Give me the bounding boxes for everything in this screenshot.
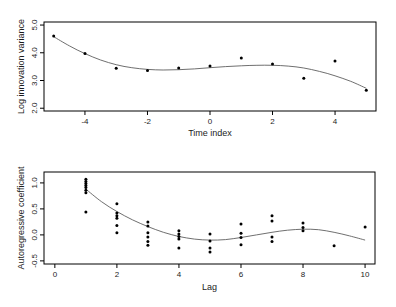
- x-tick-label: -4: [81, 117, 89, 126]
- y-ticks: -0.50.00.51.0: [30, 177, 44, 268]
- x-axis-label: Lag: [202, 282, 217, 292]
- data-point: [115, 214, 118, 217]
- x-ticks: 0246810: [53, 264, 370, 279]
- y-tick-label: 0.5: [30, 203, 39, 215]
- data-point: [115, 212, 118, 215]
- data-point: [334, 60, 337, 63]
- data-point: [240, 57, 243, 60]
- scatter-points: [52, 34, 368, 91]
- x-tick-label: 2: [115, 270, 120, 279]
- data-point: [302, 226, 305, 229]
- data-point: [115, 224, 118, 227]
- loess-curve: [86, 189, 365, 240]
- data-point: [365, 89, 368, 92]
- data-point: [177, 238, 180, 241]
- data-point: [177, 229, 180, 232]
- x-tick-label: 2: [270, 117, 275, 126]
- x-tick-label: 0: [208, 117, 213, 126]
- data-point: [240, 223, 243, 226]
- data-point: [84, 191, 87, 194]
- data-point: [146, 69, 149, 72]
- data-point: [84, 186, 87, 189]
- data-point: [146, 244, 149, 247]
- y-tick-label: -0.5: [30, 253, 39, 267]
- data-point: [177, 67, 180, 70]
- y-ticks: 2.03.04.05.0: [30, 19, 44, 114]
- data-point: [209, 232, 212, 235]
- x-tick-label: 10: [361, 270, 370, 279]
- data-point: [177, 246, 180, 249]
- data-point: [271, 236, 274, 239]
- panel-bottom: 0246810 -0.50.00.51.0 Lag Autoregressive…: [16, 166, 375, 292]
- x-tick-label: 6: [239, 270, 244, 279]
- data-point: [115, 217, 118, 220]
- data-point: [240, 236, 243, 239]
- data-point: [146, 220, 149, 223]
- two-panel-plot: -4-2024 2.03.04.05.0 Time index Log inno…: [0, 0, 396, 307]
- y-tick-label: 3.0: [30, 74, 39, 86]
- data-point: [240, 232, 243, 235]
- smooth-curve: [54, 37, 367, 89]
- data-point: [271, 240, 274, 243]
- data-point: [115, 231, 118, 234]
- y-tick-label: 2.0: [30, 102, 39, 114]
- data-point: [271, 62, 274, 65]
- data-point: [240, 243, 243, 246]
- data-point: [209, 65, 212, 68]
- data-point: [209, 251, 212, 254]
- data-point: [146, 231, 149, 234]
- data-point: [302, 77, 305, 80]
- data-point: [271, 214, 274, 217]
- data-point: [115, 67, 118, 70]
- data-point: [364, 226, 367, 229]
- y-tick-label: 1.0: [30, 177, 39, 189]
- smooth-curve: [86, 189, 365, 240]
- x-tick-label: 4: [333, 117, 338, 126]
- data-point: [209, 240, 212, 243]
- x-ticks: -4-2024: [81, 111, 337, 126]
- data-point: [52, 34, 55, 37]
- data-point: [177, 235, 180, 238]
- y-tick-label: 5.0: [30, 19, 39, 31]
- data-point: [84, 189, 87, 192]
- x-tick-label: -2: [144, 117, 152, 126]
- data-point: [115, 202, 118, 205]
- data-point: [177, 232, 180, 235]
- y-axis-label: Autoregressive coefficient: [16, 166, 26, 269]
- data-point: [84, 52, 87, 55]
- data-point: [146, 240, 149, 243]
- data-point: [333, 244, 336, 247]
- data-point: [146, 225, 149, 228]
- data-point: [271, 219, 274, 222]
- data-point: [302, 229, 305, 232]
- data-point: [84, 211, 87, 214]
- data-point: [146, 236, 149, 239]
- figure-canvas: -4-2024 2.03.04.05.0 Time index Log inno…: [0, 0, 396, 307]
- x-tick-label: 4: [177, 270, 182, 279]
- plot-frame: [44, 172, 375, 264]
- y-axis-label: Log innovation variance: [16, 19, 26, 114]
- y-tick-label: 0.0: [30, 229, 39, 241]
- data-point: [209, 246, 212, 249]
- scatter-points: [84, 178, 366, 254]
- x-axis-label: Time index: [188, 128, 232, 138]
- x-tick-label: 8: [301, 270, 306, 279]
- data-point: [302, 221, 305, 224]
- x-tick-label: 0: [53, 270, 58, 279]
- panel-top: -4-2024 2.03.04.05.0 Time index Log inno…: [16, 19, 376, 138]
- y-tick-label: 4.0: [30, 47, 39, 59]
- loess-curve: [54, 37, 367, 89]
